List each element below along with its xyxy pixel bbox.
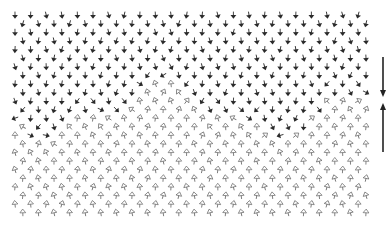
down-arrow-icon: [145, 55, 151, 62]
up-arrow-icon: [50, 191, 58, 199]
down-arrow-icon: [183, 11, 190, 19]
up-arrow-icon: [347, 140, 354, 148]
down-arrow-icon: [191, 37, 197, 44]
up-arrow-icon: [35, 157, 43, 165]
up-arrow-icon: [82, 209, 89, 217]
up-arrow-icon: [355, 166, 361, 174]
down-arrow-icon: [230, 63, 237, 71]
down-arrow-icon: [137, 29, 143, 36]
down-arrow-icon: [238, 20, 244, 28]
down-arrow-icon: [253, 20, 260, 28]
up-arrow-icon: [160, 209, 167, 217]
up-arrow-icon: [183, 183, 190, 191]
down-arrow-icon: [97, 71, 104, 79]
down-arrow-icon: [82, 37, 89, 45]
up-arrow-icon: [160, 140, 167, 148]
down-arrow-icon: [96, 106, 105, 114]
up-arrow-icon: [284, 208, 291, 216]
up-arrow-icon: [308, 148, 315, 156]
up-arrow-icon: [339, 183, 346, 191]
down-arrow-icon: [18, 105, 27, 114]
down-arrow-icon: [300, 123, 306, 130]
down-arrow-icon: [347, 37, 355, 46]
down-arrow-icon: [105, 80, 112, 88]
up-arrow-icon: [82, 192, 88, 200]
down-arrow-icon: [167, 62, 175, 71]
up-arrow-icon: [362, 174, 369, 182]
up-arrow-icon: [253, 208, 260, 216]
down-arrow-icon: [277, 97, 284, 105]
up-arrow-icon: [12, 132, 18, 139]
up-arrow-icon: [363, 140, 369, 148]
up-arrow-icon: [199, 183, 206, 191]
up-arrow-icon: [260, 131, 269, 140]
up-arrow-icon: [113, 191, 120, 199]
down-arrow-icon: [129, 72, 135, 79]
down-arrow-icon: [293, 63, 299, 70]
up-arrow-icon: [222, 209, 229, 217]
up-arrow-icon: [261, 183, 269, 191]
down-arrow-icon: [34, 122, 43, 131]
up-arrow-icon: [301, 209, 307, 216]
down-arrow-icon: [300, 37, 307, 45]
up-arrow-icon: [206, 191, 213, 199]
up-arrow-icon: [129, 140, 135, 147]
down-arrow-icon: [152, 63, 159, 71]
down-arrow-icon: [198, 97, 207, 106]
up-arrow-icon: [176, 123, 182, 131]
down-arrow-icon: [207, 54, 214, 62]
up-arrow-icon: [347, 123, 353, 130]
down-arrow-icon: [363, 54, 369, 61]
up-arrow-icon: [144, 191, 151, 199]
up-arrow-icon: [316, 123, 322, 131]
up-arrow-icon: [113, 123, 120, 131]
up-arrow-icon: [230, 131, 237, 139]
up-arrow-icon: [27, 183, 35, 192]
up-arrow-icon: [49, 140, 58, 149]
up-arrow-icon: [307, 114, 316, 123]
up-arrow-icon: [347, 174, 354, 182]
down-arrow-icon: [222, 88, 230, 96]
up-arrow-icon: [176, 140, 183, 148]
up-arrow-icon: [174, 88, 183, 97]
up-arrow-icon: [152, 166, 159, 174]
up-arrow-icon: [137, 149, 144, 157]
up-arrow-icon: [191, 174, 198, 182]
down-arrow-icon: [74, 46, 80, 53]
up-arrow-icon: [363, 157, 369, 164]
down-arrow-icon: [50, 71, 57, 79]
down-arrow-icon: [339, 63, 346, 71]
up-arrow-icon: [121, 166, 128, 174]
down-arrow-icon: [293, 80, 300, 88]
up-arrow-icon: [276, 148, 284, 157]
down-arrow-icon: [121, 63, 127, 71]
up-arrow-icon: [354, 131, 362, 139]
up-arrow-icon: [262, 149, 268, 156]
up-arrow-icon: [97, 157, 104, 165]
down-arrow-icon: [269, 20, 276, 28]
down-arrow-icon: [308, 98, 314, 105]
up-arrow-icon: [176, 209, 182, 216]
up-arrow-icon: [51, 157, 57, 164]
down-arrow-icon: [90, 80, 96, 87]
up-arrow-icon: [127, 105, 136, 114]
up-arrow-icon: [191, 140, 199, 148]
down-arrow-icon: [245, 80, 252, 88]
down-arrow-icon: [285, 89, 291, 96]
down-arrow-icon: [292, 46, 299, 54]
up-arrow-icon: [144, 140, 151, 148]
down-arrow-icon: [43, 11, 50, 19]
up-arrow-icon: [50, 209, 57, 217]
up-arrow-icon: [90, 149, 96, 157]
down-arrow-icon: [121, 80, 128, 88]
up-arrow-icon: [105, 131, 111, 139]
up-arrow-icon: [238, 174, 245, 182]
down-arrow-icon: [50, 37, 57, 45]
up-arrow-icon: [175, 191, 182, 199]
up-arrow-icon: [277, 200, 283, 207]
down-arrow-icon: [136, 45, 143, 53]
down-arrow-icon: [269, 106, 275, 114]
up-arrow-icon: [285, 192, 291, 200]
up-arrow-icon: [246, 148, 253, 156]
down-arrow-icon: [198, 45, 206, 53]
